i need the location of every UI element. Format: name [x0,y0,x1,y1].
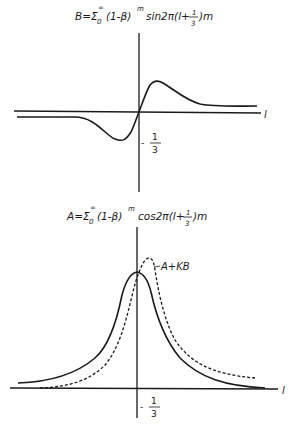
top-formula-exp: m [137,5,144,13]
bottom-formula-body2: cos2π(l+ [138,210,184,222]
bottom-formula-lhs: A=Σ [66,210,90,222]
top-formula-lhs: B=Σ [75,10,98,22]
bottom-formula-frac-den: 3 [185,220,189,228]
curve-label-a-plus-kb: A+KB [160,261,190,272]
top-formula-sup: ∞ [98,4,104,12]
top-x-axis [14,111,261,113]
bottom-formula-sub: 0 [89,218,94,226]
bottom-formula-body3: )m [192,210,207,222]
bottom-tick-sign: - [140,402,143,412]
bottom-formula-sup: ∞ [90,204,96,212]
top-x-axis-label: l [264,109,267,120]
top-curve-b [17,81,257,140]
top-tick-sign: - [141,138,144,148]
top-formula-sub: 0 [97,18,102,26]
curve-label-leader [154,266,160,267]
top-tick-num: 1 [152,132,158,142]
top-formula-frac-den: 3 [191,20,195,28]
top-formula-body3: )m [198,10,213,22]
bottom-tick-den: 3 [151,409,157,419]
bottom-formula-frac-num: 1 [186,209,190,217]
bottom-formula: A=Σ ∞ 0 (1-β) m cos2π(l+ 1 3 )m [66,204,207,228]
bottom-formula-exp: m [128,205,135,213]
bottom-formula-body1: (1-β) [97,210,122,222]
diagram-canvas: B=Σ ∞ 0 (1-β) m sin2π(l+ 1 3 )m l - 1 3 … [0,0,295,427]
bottom-x-axis [10,388,278,389]
top-formula-body2: sin2π(l+ [146,10,190,22]
bottom-curve-a-plus-kb [40,258,255,388]
top-tick-den: 3 [152,145,158,155]
top-formula-frac-num: 1 [192,9,196,17]
bottom-x-axis-label: l [282,385,285,396]
top-formula: B=Σ ∞ 0 (1-β) m sin2π(l+ 1 3 )m [75,4,213,28]
bottom-curve-a [18,272,265,388]
top-formula-body1: (1-β) [106,10,131,22]
bottom-tick-num: 1 [151,396,157,406]
